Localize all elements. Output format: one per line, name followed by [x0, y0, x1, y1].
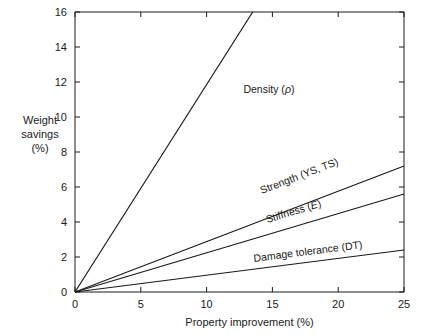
x-tick-label: 10 [200, 298, 212, 310]
chart-figure: 0246810121416 0510152025 Density (ρ)Stre… [0, 0, 425, 334]
y-tick-label: 4 [61, 216, 67, 228]
y-axis-title-line: Weight [23, 114, 57, 126]
x-tick-label: 15 [266, 298, 278, 310]
y-tick-label: 8 [61, 146, 67, 158]
y-tick-label: 14 [55, 41, 67, 53]
y-tick-label: 6 [61, 181, 67, 193]
x-tick-label: 0 [72, 298, 78, 310]
y-tick-label: 0 [61, 286, 67, 298]
y-tick-label: 16 [55, 6, 67, 18]
x-tick-label: 5 [138, 298, 144, 310]
y-axis-title-line: savings [21, 128, 59, 140]
x-tick-label: 25 [398, 298, 410, 310]
weight-savings-line-chart: 0246810121416 0510152025 Density (ρ)Stre… [0, 0, 425, 334]
y-tick-label: 2 [61, 251, 67, 263]
y-axis-title-line: (%) [31, 142, 48, 154]
y-tick-label: 12 [55, 76, 67, 88]
x-tick-label: 20 [332, 298, 344, 310]
x-axis-title: Property improvement (%) [185, 316, 313, 328]
series-label-density: Density (ρ) [243, 83, 294, 95]
